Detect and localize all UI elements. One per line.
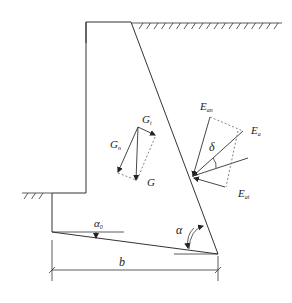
- gt-vector: [138, 127, 155, 135]
- ea-label: Ea: [250, 124, 261, 137]
- hatch-mark: [177, 23, 181, 29]
- hatch-mark: [207, 23, 211, 29]
- hatch-mark: [24, 193, 28, 199]
- hatch-mark: [154, 23, 158, 29]
- hatch-mark: [214, 23, 218, 29]
- wall-base: [52, 232, 218, 254]
- hatch-mark: [244, 23, 248, 29]
- gn-label: Gn: [110, 138, 121, 151]
- g-vector: [136, 127, 138, 180]
- hatch-mark: [139, 23, 143, 29]
- earth-pressure-vectors: [193, 117, 248, 187]
- hatch-mark: [237, 23, 241, 29]
- normal-line: [193, 158, 248, 176]
- wall-face-inclined: [131, 22, 218, 254]
- hatch-mark: [274, 23, 278, 29]
- gt-label: Gt: [142, 113, 152, 126]
- hatch-mark: [162, 23, 166, 29]
- hatch-mark: [222, 23, 226, 29]
- hatch-mark: [39, 193, 43, 199]
- hatch-mark: [199, 23, 203, 29]
- retaining-wall-diagram: α0 α b Gt Gn G Ean Ea Eat δ: [0, 0, 292, 303]
- eat-vector: [194, 178, 225, 187]
- hatch-mark: [229, 23, 233, 29]
- delta-label: δ: [209, 140, 215, 154]
- ea-vector: [193, 131, 243, 176]
- ean-label: Ean: [199, 100, 213, 113]
- gn-vector: [118, 127, 138, 172]
- hatch-mark: [252, 23, 256, 29]
- ean-vector: [193, 117, 210, 176]
- hatch-mark: [259, 23, 263, 29]
- alpha-label: α: [176, 223, 183, 237]
- g-label: G: [147, 176, 155, 188]
- ground-left: [22, 193, 52, 199]
- hatch-mark: [147, 23, 151, 29]
- alpha0-label: α0: [94, 217, 103, 230]
- hatch-mark: [32, 193, 36, 199]
- dimension-b: [49, 240, 221, 281]
- hatch-mark: [267, 23, 271, 29]
- diagram-canvas: α0 α b Gt Gn G Ean Ea Eat δ: [0, 0, 292, 303]
- hatch-mark: [192, 23, 196, 29]
- ground-top: [131, 23, 282, 29]
- b-label: b: [119, 255, 125, 269]
- wall-outline: [52, 22, 218, 254]
- hatch-mark: [184, 23, 188, 29]
- hatch-mark: [169, 23, 173, 29]
- eat-label: Eat: [237, 187, 250, 200]
- gravity-vectors: [118, 127, 155, 180]
